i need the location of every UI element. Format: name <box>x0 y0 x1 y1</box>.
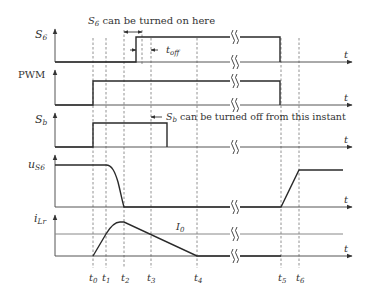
break-icon-pwm-high <box>230 74 240 88</box>
label-pwm: PWM <box>18 69 45 80</box>
pwm-waveform <box>55 81 280 105</box>
label-ilr: iLr <box>34 212 47 226</box>
label-sb: Sb <box>35 113 48 127</box>
t5-label: t5 <box>278 272 287 285</box>
toff-annotation: toff <box>166 44 180 57</box>
break-icon-i0 <box>230 227 240 241</box>
time-axis-labels: t t t t t <box>344 49 349 254</box>
t2-label: t2 <box>121 272 130 285</box>
t-label-pwm: t <box>344 92 349 103</box>
annotation-arrows <box>124 32 162 117</box>
t-label-ilr: t <box>344 243 349 254</box>
time-marker-labels: t0 t1 t2 t3 t4 t5 t6 <box>89 272 305 285</box>
us6-waveform <box>55 165 343 207</box>
break-icon-sb-axis <box>230 140 240 154</box>
i0-label: I0 <box>175 221 185 234</box>
t6-label: t6 <box>296 272 305 285</box>
time-marker-lines <box>93 30 299 268</box>
axes <box>55 29 352 256</box>
t3-label: t3 <box>147 272 156 285</box>
t-label-us6: t <box>344 194 349 205</box>
break-symbols <box>230 30 240 263</box>
break-icon-ilr-axis <box>230 249 240 263</box>
ilr-waveform <box>93 222 281 256</box>
s6-turn-on-annotation: S6 can be turned on here <box>88 15 215 28</box>
t0-label: t0 <box>89 272 98 285</box>
t-label-sb: t <box>344 134 349 145</box>
break-icon-s6-high <box>230 30 240 44</box>
label-s6: S6 <box>35 28 48 42</box>
sb-turn-off-annotation: Sb can be turned off from this instant <box>166 111 346 124</box>
sb-waveform <box>55 123 167 147</box>
t4-label: t4 <box>194 272 203 285</box>
break-icon-pwm-axis <box>230 98 240 112</box>
label-us6: uS6 <box>28 158 45 172</box>
t-label-s6: t <box>344 49 349 60</box>
break-icon-s6-axis <box>230 55 240 69</box>
break-icon-us6-axis <box>230 200 240 214</box>
timing-diagram: S6 PWM Sb uS6 iLr t t t t t S6 can be tu… <box>0 0 373 299</box>
t1-label: t1 <box>102 272 111 285</box>
